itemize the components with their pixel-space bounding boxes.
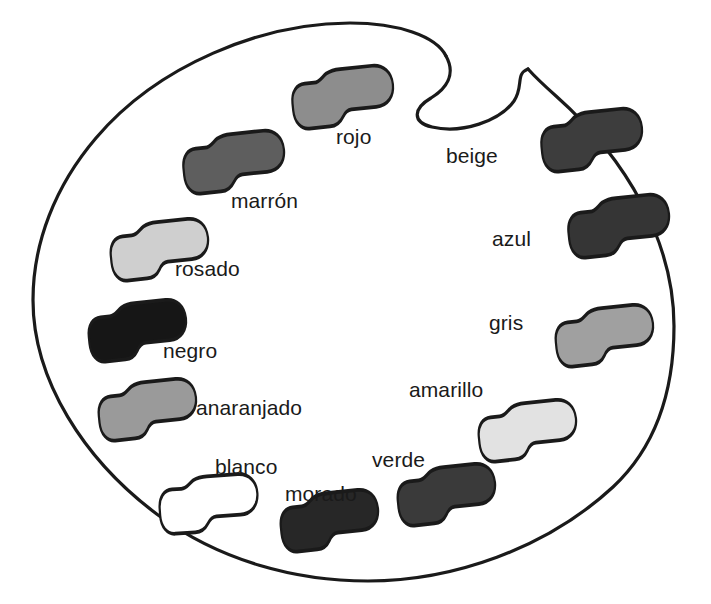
color-label-azul: azul — [492, 228, 531, 249]
color-label-verde: verde — [372, 449, 425, 470]
color-label-blanco: blanco — [215, 456, 277, 477]
color-label-anaranjado: anaranjado — [196, 397, 302, 418]
color-label-gris: gris — [489, 312, 523, 333]
color-label-amarillo: amarillo — [409, 379, 483, 400]
palette-canvas — [0, 0, 711, 604]
palette-diagram: rojobeigemarrónazulrosadogrisnegroamaril… — [0, 0, 711, 604]
color-label-rojo: rojo — [336, 126, 371, 147]
color-label-beige: beige — [446, 145, 498, 166]
color-label-rosado: rosado — [175, 258, 240, 279]
color-label-negro: negro — [163, 340, 217, 361]
color-label-morado: morado — [285, 483, 357, 504]
color-label-marron: marrón — [231, 190, 298, 211]
